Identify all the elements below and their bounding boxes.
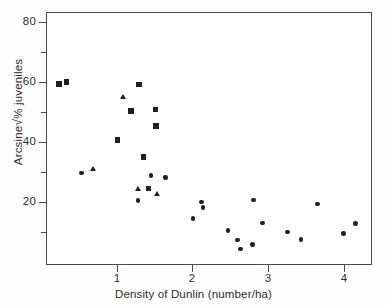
data-point-square — [146, 186, 152, 192]
y-tick-minor-50 — [41, 112, 46, 113]
y-axis-title-prefix: Arcsine — [12, 126, 24, 165]
y-tick-80 — [39, 22, 46, 23]
data-point-circle — [341, 231, 346, 236]
data-point-circle — [201, 205, 206, 210]
plot-area — [46, 12, 372, 265]
data-point-circle — [149, 173, 154, 178]
data-point-square — [141, 154, 147, 160]
data-point-circle — [136, 198, 141, 203]
scatter-plot-figure: 80 60 40 20 1 2 3 4 Density of Dunlin (n… — [0, 0, 387, 307]
y-tick-60 — [39, 82, 46, 83]
data-point-triangle — [154, 191, 160, 196]
y-axis-title: Arcsine√% juveniles — [11, 32, 25, 192]
x-tick-1 — [117, 265, 118, 272]
data-point-circle — [353, 221, 358, 226]
data-point-square — [153, 123, 159, 129]
data-point-triangle — [120, 94, 126, 99]
data-point-triangle — [135, 186, 141, 191]
x-tick-label-1: 1 — [102, 272, 132, 284]
x-tick-label-3: 3 — [253, 272, 283, 284]
x-axis-title: Density of Dunlin (number/ha) — [0, 288, 387, 300]
y-tick-40 — [39, 142, 46, 143]
y-tick-label-20: 20 — [0, 195, 36, 207]
data-point-circle — [285, 230, 290, 235]
data-point-square — [56, 81, 62, 87]
radical-icon: √ — [11, 119, 25, 126]
y-tick-label-80: 80 — [0, 15, 36, 27]
data-point-square — [153, 107, 159, 113]
y-tick-minor-70 — [41, 52, 46, 53]
data-point-circle — [315, 202, 320, 207]
data-point-circle — [299, 237, 304, 242]
data-point-square — [64, 79, 70, 85]
x-tick-3 — [268, 265, 269, 272]
x-tick-label-2: 2 — [177, 272, 207, 284]
data-point-circle — [250, 242, 255, 247]
y-tick-minor-10 — [41, 232, 46, 233]
data-point-circle — [163, 175, 168, 180]
y-tick-20 — [39, 202, 46, 203]
data-point-circle — [79, 171, 84, 176]
x-tick-4 — [344, 265, 345, 272]
x-tick-2 — [192, 265, 193, 272]
data-point-circle — [226, 228, 231, 233]
data-point-square — [115, 137, 121, 143]
data-point-square — [136, 82, 142, 88]
x-tick-label-4: 4 — [329, 272, 359, 284]
data-point-circle — [199, 200, 204, 205]
data-point-square — [128, 108, 134, 114]
data-point-triangle — [90, 166, 96, 171]
data-point-circle — [238, 247, 243, 252]
y-axis-title-suffix: % juveniles — [12, 59, 24, 119]
y-tick-minor-30 — [41, 172, 46, 173]
